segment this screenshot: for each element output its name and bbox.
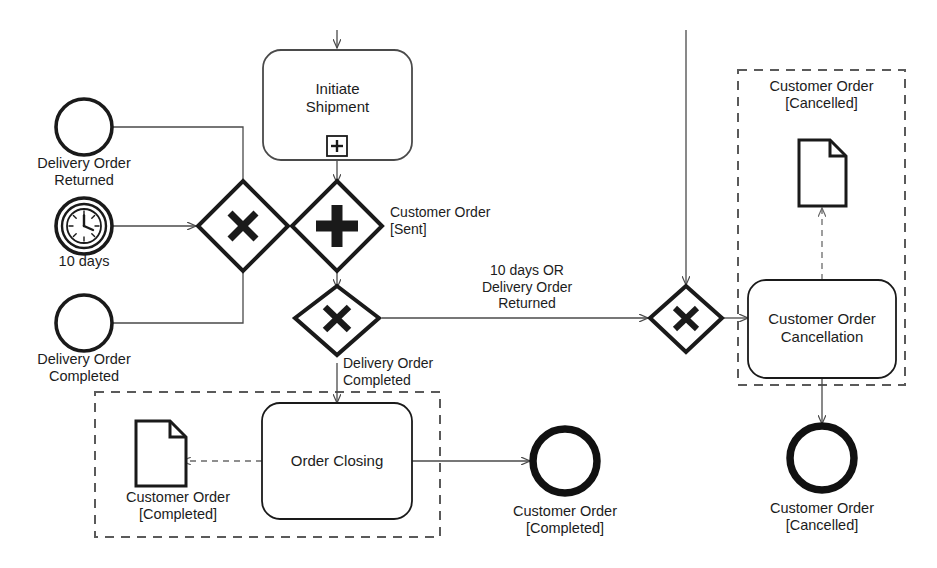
label-flow-customer-order-sent: Customer Order [Sent] (390, 204, 570, 237)
label-data-object-customer-order-completed: Customer Order [Completed] (88, 489, 268, 523)
gateway-split-exclusive[interactable] (295, 286, 379, 355)
event-end-customer-order-cancelled[interactable] (790, 426, 854, 490)
event-delivery-order-completed[interactable] (56, 295, 112, 351)
data-object-customer-order-completed[interactable] (136, 421, 186, 486)
label-group-customer-order-cancelled: Customer Order [Cancelled] (738, 78, 905, 112)
event-end-customer-order-completed[interactable] (533, 429, 597, 493)
label-delivery-order-completed-event: Delivery Order Completed (4, 351, 164, 385)
data-object-customer-order-cancelled[interactable] (799, 140, 846, 206)
label-flow-10-days-or-returned: 10 days OR Delivery Order Returned (432, 262, 622, 312)
event-timer-10-days[interactable] (56, 198, 112, 254)
gateway-parallel-split[interactable] (292, 181, 382, 271)
label-task-initiate-shipment: Initiate Shipment (263, 80, 412, 116)
clock-icon (67, 209, 101, 243)
gateway-merge-exclusive[interactable] (198, 181, 288, 271)
label-timer-10-days: 10 days (4, 253, 164, 270)
label-delivery-order-returned: Delivery Order Returned (4, 155, 164, 189)
label-flow-delivery-order-completed: Delivery Order Completed (343, 355, 523, 388)
label-end-event-customer-order-cancelled: Customer Order [Cancelled] (742, 500, 902, 534)
label-task-customer-order-cancellation: Customer Order Cancellation (748, 310, 896, 346)
gateway-cancel-exclusive[interactable] (650, 286, 722, 352)
event-delivery-order-returned[interactable] (56, 99, 112, 155)
label-task-order-closing: Order Closing (262, 452, 412, 470)
flow-completed-to-merge (112, 261, 243, 323)
label-end-event-customer-order-completed: Customer Order [Completed] (485, 503, 645, 537)
